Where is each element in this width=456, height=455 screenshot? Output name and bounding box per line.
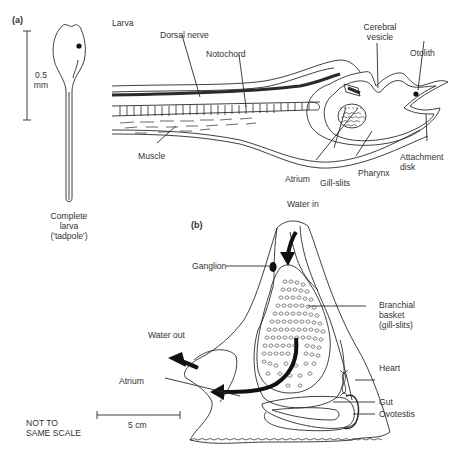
caption-line-1: Complete [44, 211, 94, 221]
note-line-1: NOT TO [26, 418, 81, 428]
label-pharynx: Pharynx [358, 168, 390, 178]
ganglion-dot [269, 262, 276, 272]
label-atrium-larva: Atrium [285, 174, 310, 184]
scale-a-label: 0.5 mm [30, 70, 52, 90]
scale-bar-b [97, 411, 180, 419]
gill-slit-grid [262, 280, 325, 387]
label-dorsal-nerve: Dorsal nerve [160, 30, 209, 40]
scale-note: NOT TO SAME SCALE [26, 418, 81, 438]
scale-a-value: 0.5 [30, 70, 52, 80]
scale-a-unit: mm [30, 80, 52, 90]
branchial-line-1: Branchial [379, 300, 415, 310]
tadpole-caption: Complete larva ('tadpole') [44, 211, 94, 241]
label-cerebral-vesicle: Cerebral vesicle [362, 22, 398, 42]
label-atrium-adult: Atrium [119, 376, 144, 386]
label-gut: Gut [379, 397, 393, 407]
branchial-line-2: basket [379, 310, 415, 320]
water-in-arrowhead [280, 252, 295, 266]
cerebral-line-1: Cerebral [362, 22, 398, 32]
otolith-dot [76, 43, 81, 48]
water-flow-arrows [178, 232, 296, 392]
caption-line-3: ('tadpole') [44, 231, 94, 241]
label-ovotestis: Ovotestis [379, 409, 415, 419]
label-muscle: Muscle [138, 151, 165, 161]
label-water-in: Water in [287, 199, 319, 209]
label-notochord: Notochord [206, 49, 246, 59]
label-ganglion: Ganglion [192, 261, 226, 271]
water-out-arrowhead [168, 352, 186, 367]
larva-body [112, 35, 448, 168]
larva-title: Larva [112, 18, 134, 28]
attachment-line-2: disk [400, 162, 443, 172]
panel-a-tag: (a) [12, 15, 23, 25]
label-otolith: Otolith [410, 48, 435, 58]
note-line-2: SAME SCALE [26, 428, 81, 438]
label-branchial-basket: Branchial basket (gill-slits) [379, 300, 415, 330]
label-heart: Heart [379, 363, 400, 373]
panel-b-tag: (b) [191, 220, 203, 230]
label-gill-slits: Gill-slits [320, 178, 350, 188]
otolith-dot-larva [413, 91, 418, 96]
tadpole-outline [53, 25, 85, 202]
scale-b-label: 5 cm [128, 420, 147, 430]
label-water-out: Water out [148, 330, 185, 340]
label-attachment-disk: Attachment disk [400, 152, 443, 172]
cerebral-line-2: vesicle [362, 32, 398, 42]
branchial-line-3: (gill-slits) [379, 320, 415, 330]
adult-body [165, 221, 390, 443]
attachment-line-1: Attachment [400, 152, 443, 162]
caption-line-2: larva [44, 221, 94, 231]
